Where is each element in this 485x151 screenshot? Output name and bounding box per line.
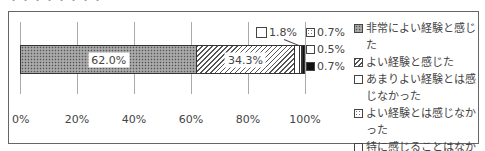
legend-swatch-icon — [354, 75, 363, 84]
legend-label: よい経験と感じた — [366, 54, 478, 71]
segment-value-label: 34.3% — [225, 52, 266, 67]
legend-item: 非常によい経験と感じた — [354, 20, 478, 54]
legend-swatch-icon — [354, 143, 363, 151]
callout-label: 1.8% — [256, 26, 297, 39]
legend-swatch-icon — [354, 109, 363, 118]
x-tick-label: 20% — [65, 113, 89, 126]
legend-item: よい経験と感じた — [354, 54, 478, 71]
legend-item: 特に感じることはなかった — [354, 139, 478, 151]
stacked-bar: 62.0%34.3% — [20, 45, 305, 74]
legend-label: 特に感じることはなかった — [366, 139, 478, 151]
legend-label: よい経験とは感じなかった — [366, 105, 478, 139]
legend-label: 非常によい経験と感じた — [366, 20, 478, 54]
x-tick-label: 80% — [236, 113, 260, 126]
legend-swatch-icon — [354, 58, 363, 67]
bar-segment: 62.0% — [21, 46, 196, 73]
callout-label: 0.7% — [306, 60, 345, 73]
pattern-swatch-icon — [256, 27, 267, 38]
pattern-swatch-icon — [306, 62, 315, 71]
x-tick-label: 100% — [289, 113, 320, 126]
legend-label: あまりよい経験とは感じなかった — [366, 71, 478, 105]
legend-item: よい経験とは感じなかった — [354, 105, 478, 139]
legend: 非常によい経験と感じたよい経験と感じたあまりよい経験とは感じなかったよい経験とは… — [354, 20, 478, 151]
bar-segment: 34.3% — [196, 46, 293, 73]
title-fragment: ・・・・・・・・ — [8, 0, 104, 7]
pattern-swatch-icon — [306, 28, 315, 37]
legend-item: あまりよい経験とは感じなかった — [354, 71, 478, 105]
x-tick-label: 60% — [179, 113, 203, 126]
pattern-swatch-icon — [306, 45, 315, 54]
legend-swatch-icon — [354, 24, 363, 33]
callout-label: 0.7% — [306, 26, 345, 39]
callout-label: 0.5% — [306, 43, 345, 56]
x-tick-label: 0% — [12, 113, 29, 126]
bar-segment — [302, 46, 304, 73]
x-tick-label: 40% — [122, 113, 146, 126]
segment-value-label: 62.0% — [88, 52, 129, 67]
